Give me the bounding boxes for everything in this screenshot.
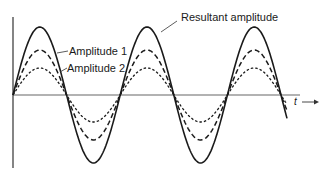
wave-diagram xyxy=(0,0,327,175)
time-arrowhead-icon xyxy=(314,100,319,105)
amplitude-2-label: Amplitude 2 xyxy=(67,62,125,74)
amplitude-1-label: Amplitude 1 xyxy=(69,45,127,57)
amplitude-1-leader-line xyxy=(57,51,68,53)
amplitude-2-leader-line xyxy=(60,68,67,72)
time-axis-label: t xyxy=(294,96,297,108)
resultant-leader-line xyxy=(161,21,177,32)
resultant-label: Resultant amplitude xyxy=(181,11,278,23)
